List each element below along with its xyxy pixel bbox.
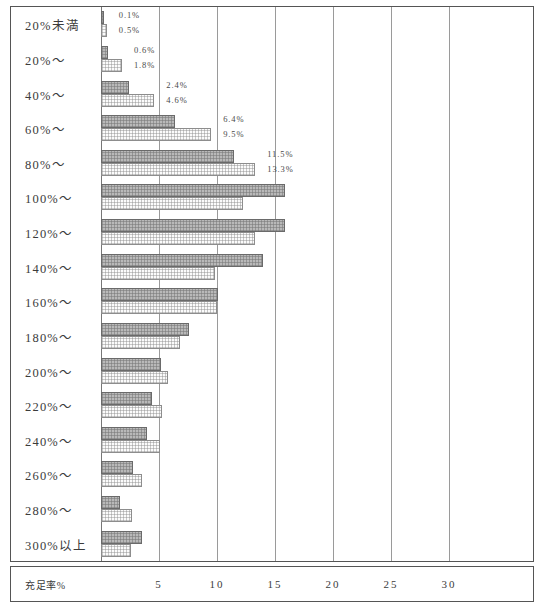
bar-series-b	[101, 371, 168, 384]
category-label: 260%～	[25, 465, 73, 484]
x-tick-25: 25	[384, 578, 399, 590]
bar-row: 140%～	[11, 249, 533, 284]
category-label: 240%～	[25, 430, 73, 449]
bar-series-a	[101, 427, 147, 440]
bar-row: 120%～	[11, 215, 533, 250]
bar-series-b	[101, 336, 180, 349]
bar-row: 220%～	[11, 388, 533, 423]
bar-row: 100%～	[11, 180, 533, 215]
category-label: 280%～	[25, 500, 73, 519]
bar-row: 20%未満	[11, 7, 533, 42]
bar-row: 20%～	[11, 42, 533, 77]
bar-series-b	[101, 509, 132, 522]
bar-series-b	[101, 94, 154, 107]
category-label: 120%～	[25, 223, 73, 242]
bar-series-b	[101, 59, 122, 72]
x-tick-5: 5	[155, 578, 163, 590]
annotation-series-a: 6.4%	[223, 114, 244, 124]
bar-rows: 20%未満20%～40%～60%～80%～100%～120%～140%～160%…	[11, 7, 533, 561]
annotation-series-a: 0.6%	[134, 45, 155, 55]
x-tick-20: 20	[326, 578, 341, 590]
bar-series-a	[101, 461, 133, 474]
category-label: 100%～	[25, 188, 73, 207]
bar-row: 40%～	[11, 76, 533, 111]
bar-series-b	[101, 474, 142, 487]
bar-series-a	[101, 323, 189, 336]
bar-series-a	[101, 184, 285, 197]
annotation-series-a: 0.1%	[119, 10, 140, 20]
bar-series-a	[101, 46, 108, 59]
category-label: 220%～	[25, 396, 73, 415]
category-label: 300%以上	[25, 534, 87, 553]
bar-series-b	[101, 24, 107, 37]
bar-series-a	[101, 150, 234, 163]
category-label: 40%～	[25, 84, 66, 103]
bar-series-a	[101, 288, 218, 301]
bar-row: 200%～	[11, 353, 533, 388]
bar-series-a	[101, 392, 152, 405]
plot-area: 20%未満20%～40%～60%～80%～100%～120%～140%～160%…	[10, 6, 534, 562]
bar-series-b	[101, 267, 215, 280]
bar-series-b	[101, 301, 217, 314]
bar-row: 280%～	[11, 492, 533, 527]
x-tick-30: 30	[442, 578, 457, 590]
bar-series-b	[101, 197, 243, 210]
category-label: 60%～	[25, 119, 66, 138]
annotation-series-a: 2.4%	[166, 80, 187, 90]
annotation-series-b: 1.8%	[134, 60, 155, 70]
x-axis: 充足率% 51015202530	[10, 566, 534, 602]
bar-row: 60%～	[11, 111, 533, 146]
category-label: 160%～	[25, 292, 73, 311]
bar-row: 260%～	[11, 457, 533, 492]
annotation-series-b: 4.6%	[166, 95, 187, 105]
bar-series-a	[101, 81, 129, 94]
bar-series-b	[101, 405, 162, 418]
bar-row: 180%～	[11, 319, 533, 354]
bar-series-b	[101, 128, 211, 141]
category-label: 200%～	[25, 361, 73, 380]
category-label: 180%～	[25, 326, 73, 345]
bar-series-b	[101, 440, 160, 453]
bar-row: 160%～	[11, 284, 533, 319]
category-label: 20%～	[25, 49, 66, 68]
bar-series-a	[101, 496, 120, 509]
annotation-series-a: 11.5%	[267, 149, 293, 159]
bar-row: 240%～	[11, 423, 533, 458]
x-tick-15: 15	[268, 578, 283, 590]
category-label: 140%～	[25, 257, 73, 276]
annotation-series-b: 0.5%	[119, 25, 140, 35]
bar-series-a	[101, 531, 142, 544]
x-tick-10: 10	[210, 578, 225, 590]
annotation-series-b: 13.3%	[267, 164, 293, 174]
category-label: 20%未満	[25, 15, 80, 34]
x-axis-title: 充足率%	[25, 577, 66, 592]
bar-series-b	[101, 544, 131, 557]
bar-series-a	[101, 219, 285, 232]
bar-series-b	[101, 163, 255, 176]
chart-root: 20%未満20%～40%～60%～80%～100%～120%～140%～160%…	[0, 0, 545, 614]
bar-row: 300%以上	[11, 526, 533, 561]
bar-series-a	[101, 254, 263, 267]
bar-series-b	[101, 232, 255, 245]
bar-series-a	[101, 115, 175, 128]
category-label: 80%～	[25, 153, 66, 172]
bar-series-a	[101, 11, 104, 24]
bar-series-a	[101, 358, 161, 371]
annotation-series-b: 9.5%	[223, 129, 244, 139]
